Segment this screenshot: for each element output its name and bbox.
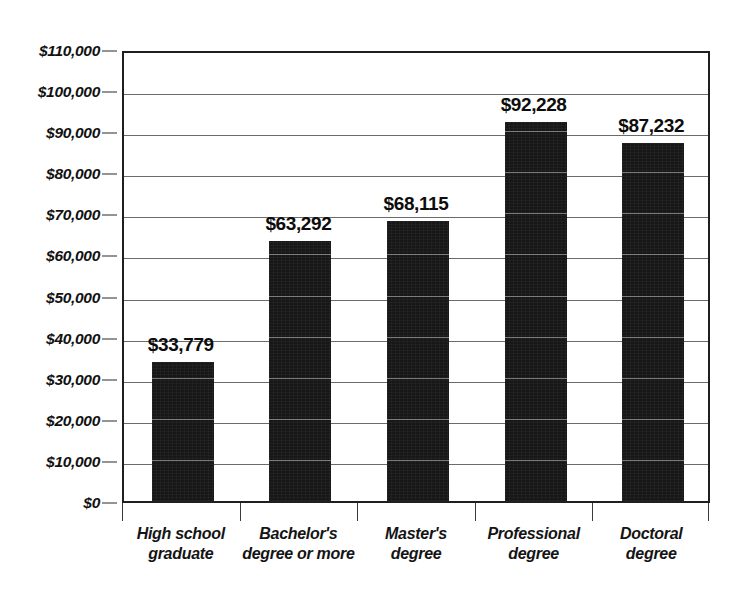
- gridline-over-bar: [622, 296, 684, 297]
- gridline-over-bar: [269, 254, 331, 255]
- x-tick-mark: [122, 503, 123, 521]
- x-category-label-line: Doctoral: [572, 524, 730, 544]
- gridline-over-bar: [387, 337, 449, 338]
- y-tick-mark: [102, 461, 117, 462]
- gridline-over-bar: [387, 460, 449, 461]
- x-axis-ticks: [122, 503, 710, 521]
- gridline-over-bar: [505, 419, 567, 420]
- bar-value-label: $33,779: [148, 334, 214, 356]
- y-tick-mark: [102, 256, 117, 257]
- bar-value-label: $92,228: [501, 94, 567, 116]
- gridline-over-bar: [505, 254, 567, 255]
- gridline-over-bar: [269, 460, 331, 461]
- gridline-over-bar: [622, 378, 684, 379]
- gridline-over-bar: [505, 378, 567, 379]
- x-tick-mark: [475, 503, 476, 521]
- bar-value-label: $63,292: [265, 213, 331, 235]
- y-tick-mark: [102, 297, 117, 298]
- bar: [622, 143, 684, 501]
- gridline-over-bar: [622, 337, 684, 338]
- y-tick-mark: [102, 420, 117, 421]
- y-tick-label: $80,000: [0, 165, 100, 183]
- x-tick-mark: [708, 503, 709, 521]
- bar: [387, 221, 449, 501]
- bar: [152, 362, 214, 501]
- gridline-over-bar: [152, 460, 214, 461]
- y-tick-label: $0: [0, 494, 100, 512]
- y-tick-label: $90,000: [0, 124, 100, 142]
- y-tick-mark: [102, 92, 117, 93]
- gridline-over-bar: [269, 419, 331, 420]
- gridline-over-bar: [387, 378, 449, 379]
- x-tick-mark: [357, 503, 358, 521]
- gridline-over-bar: [622, 460, 684, 461]
- y-tick-mark: [102, 338, 117, 339]
- gridline-over-bar: [505, 172, 567, 173]
- gridline-over-bar: [269, 337, 331, 338]
- gridline-over-bar: [152, 378, 214, 379]
- gridline-over-bar: [152, 419, 214, 420]
- bar: [269, 241, 331, 501]
- y-tick-label: $20,000: [0, 412, 100, 430]
- y-tick-mark: [102, 215, 117, 216]
- gridline-over-bar: [269, 378, 331, 379]
- y-tick-label: $100,000: [0, 83, 100, 101]
- y-tick-label: $60,000: [0, 247, 100, 265]
- y-tick-mark: [102, 133, 117, 134]
- y-tick-label: $10,000: [0, 453, 100, 471]
- y-tick-label: $110,000: [0, 42, 100, 60]
- x-category-label-line: degree: [572, 544, 730, 564]
- gridline-over-bar: [622, 254, 684, 255]
- gridline-over-bar: [622, 419, 684, 420]
- bar: [505, 122, 567, 501]
- gridline-over-bar: [622, 213, 684, 214]
- bar-value-label: $87,232: [618, 115, 684, 137]
- gridline-over-bar: [505, 337, 567, 338]
- x-axis-labels: High schoolgraduateBachelor'sdegree or m…: [122, 524, 710, 590]
- gridline-over-bar: [387, 296, 449, 297]
- gridline-over-bar: [505, 213, 567, 214]
- x-category-label: Doctoraldegree: [572, 524, 730, 564]
- bar-value-label: $68,115: [384, 193, 449, 215]
- x-tick-mark: [240, 503, 241, 521]
- y-tick-mark: [102, 174, 117, 175]
- gridline-over-bar: [269, 296, 331, 297]
- gridline-over-bar: [387, 254, 449, 255]
- y-tick-mark: [102, 51, 117, 52]
- y-tick-mark: [102, 503, 117, 504]
- y-tick-label: $40,000: [0, 330, 100, 348]
- y-tick-label: $30,000: [0, 371, 100, 389]
- y-tick-label: $70,000: [0, 206, 100, 224]
- gridline-over-bar: [387, 419, 449, 420]
- y-tick-mark: [102, 379, 117, 380]
- gridline-over-bar: [505, 460, 567, 461]
- gridline-over-bar: [505, 296, 567, 297]
- bar-chart: $110,000$100,000$90,000$80,000$70,000$60…: [0, 0, 748, 590]
- y-axis: $110,000$100,000$90,000$80,000$70,000$60…: [0, 0, 122, 590]
- gridline-over-bar: [622, 172, 684, 173]
- gridline-over-bar: [505, 131, 567, 132]
- y-tick-label: $50,000: [0, 289, 100, 307]
- x-tick-mark: [592, 503, 593, 521]
